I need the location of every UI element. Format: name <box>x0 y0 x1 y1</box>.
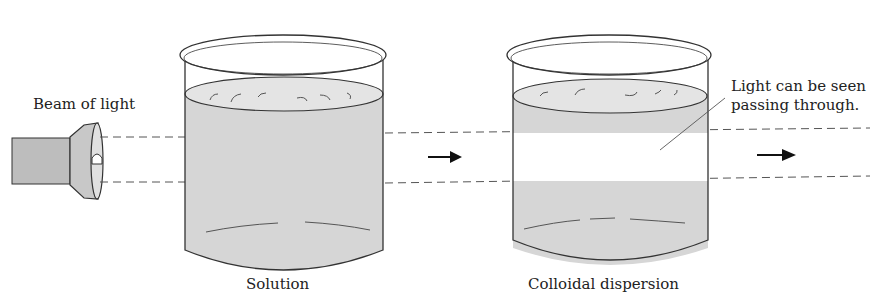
annotation-line-2: passing through. <box>731 96 859 114</box>
beam-label: Beam of light <box>33 95 135 113</box>
beaker-colloid <box>507 35 725 265</box>
colloid-label: Colloidal dispersion <box>528 275 679 293</box>
flashlight-icon <box>12 123 103 199</box>
tyndall-diagram: Beam of light Solution Colloidal dispers… <box>0 0 889 308</box>
annotation-line-1: Light can be seen <box>731 77 866 95</box>
diagram-canvas <box>0 0 889 308</box>
arrow-right-icon <box>757 149 796 161</box>
arrow-right-icon <box>428 151 462 163</box>
beaker-solution <box>180 35 386 270</box>
solution-label: Solution <box>246 275 309 293</box>
